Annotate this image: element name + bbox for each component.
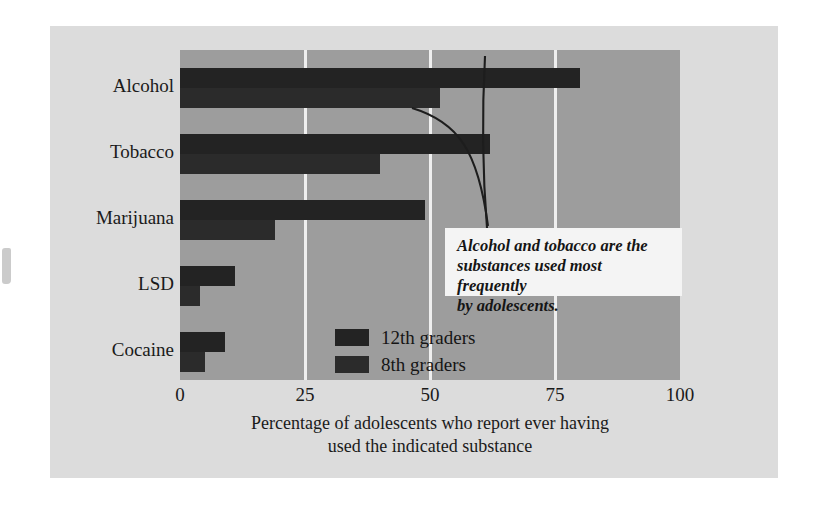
y-axis-label-marijuana: Marijuana	[96, 207, 174, 229]
bar-lsd-12th-graders	[180, 266, 235, 286]
bar-tobacco-8th-graders	[180, 154, 380, 174]
x-tick-label-100: 100	[666, 384, 695, 406]
bar-alcohol-8th-graders	[180, 88, 440, 108]
bar-tobacco-12th-graders	[180, 134, 490, 154]
legend-swatch-8th-graders	[335, 356, 369, 373]
legend-swatch-12th-graders	[335, 329, 369, 346]
bar-group-tobacco	[180, 134, 680, 174]
bar-cocaine-8th-graders	[180, 352, 205, 372]
bar-lsd-8th-graders	[180, 286, 200, 306]
callout-line-1: Alcohol and tobacco are the	[457, 236, 672, 256]
legend-label-12th-graders: 12th graders	[381, 327, 475, 349]
callout-line-3: by adolescents.	[457, 296, 672, 316]
figure-panel: 12th graders 8th graders AlcoholTobaccoM…	[50, 26, 778, 478]
chart-legend: 12th graders 8th graders	[335, 324, 475, 378]
legend-item-8th-graders[interactable]: 8th graders	[335, 351, 475, 378]
bar-group-alcohol	[180, 68, 680, 108]
page-scan-artifact	[2, 248, 11, 284]
x-tick-label-75: 75	[546, 384, 565, 406]
y-axis-label-cocaine: Cocaine	[112, 339, 174, 361]
bar-alcohol-12th-graders	[180, 68, 580, 88]
x-tick-label-25: 25	[296, 384, 315, 406]
bar-cocaine-12th-graders	[180, 332, 225, 352]
callout-line-2: substances used most frequently	[457, 256, 672, 296]
x-axis-title-line-2: used the indicated substance	[180, 435, 680, 458]
bar-marijuana-12th-graders	[180, 200, 425, 220]
legend-item-12th-graders[interactable]: 12th graders	[335, 324, 475, 351]
y-axis-label-alcohol: Alcohol	[113, 75, 174, 97]
legend-label-8th-graders: 8th graders	[381, 354, 466, 376]
callout-annotation-box: Alcohol and tobacco are the substances u…	[445, 228, 682, 296]
plot-area: 12th graders 8th graders	[180, 50, 680, 380]
x-axis-title: Percentage of adolescents who report eve…	[180, 412, 680, 457]
x-tick-label-0: 0	[175, 384, 185, 406]
x-tick-label-50: 50	[421, 384, 440, 406]
bar-marijuana-8th-graders	[180, 220, 275, 240]
x-axis-title-line-1: Percentage of adolescents who report eve…	[180, 412, 680, 435]
y-axis-label-lsd: LSD	[138, 273, 174, 295]
callout-annotation-text: Alcohol and tobacco are the substances u…	[457, 236, 672, 317]
y-axis-label-tobacco: Tobacco	[110, 141, 174, 163]
